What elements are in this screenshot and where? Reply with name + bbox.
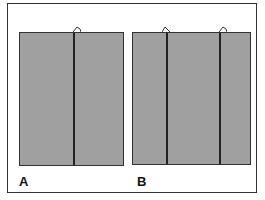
panel-b-divider-2 [219, 33, 221, 164]
panel-a-divider [73, 33, 75, 165]
arrow-marker-icon [162, 26, 170, 32]
label-a: A [19, 174, 28, 189]
panel-b [132, 32, 251, 165]
arrow-marker-icon [219, 26, 227, 32]
label-b: B [137, 174, 146, 189]
arrow-marker-icon [73, 26, 81, 32]
panel-b-divider-1 [166, 33, 168, 164]
panel-a [19, 32, 124, 166]
